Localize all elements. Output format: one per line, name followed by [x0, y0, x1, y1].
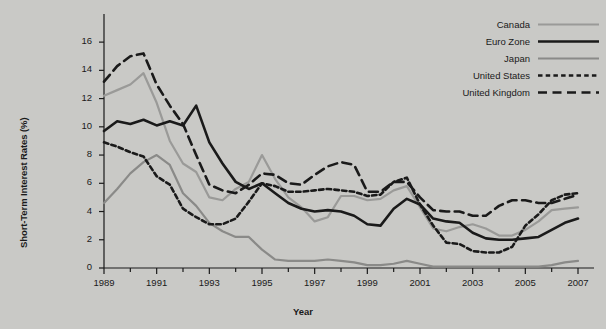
legend-swatch-japan	[537, 53, 600, 64]
x-tick-label: 1991	[137, 277, 177, 288]
chart-figure: Short-Term Interest Rates (%) Year 02468…	[0, 0, 606, 329]
x-tick-label: 1989	[84, 277, 124, 288]
y-tick-label: 14	[64, 63, 92, 74]
y-tick-label: 6	[64, 176, 92, 187]
legend-label: United States	[473, 70, 530, 81]
y-tick-label: 4	[64, 205, 92, 216]
y-tick-label: 8	[64, 148, 92, 159]
y-axis-title: Short-Term Interest Rates (%)	[18, 118, 29, 248]
y-tick-label: 10	[64, 120, 92, 131]
legend-swatch-united-kingdom	[537, 87, 600, 98]
legend-item-united-states[interactable]: United States	[404, 67, 600, 84]
x-tick-label: 2001	[400, 277, 440, 288]
x-tick-label: 2003	[453, 277, 493, 288]
legend-label: Japan	[504, 53, 530, 64]
x-tick-label: 2007	[558, 277, 598, 288]
legend-item-japan[interactable]: Japan	[404, 50, 600, 67]
x-tick-label: 1997	[295, 277, 335, 288]
legend-item-united-kingdom[interactable]: United Kingdom	[404, 84, 600, 101]
y-tick-label: 12	[64, 92, 92, 103]
legend-label: Euro Zone	[486, 36, 530, 47]
chart-legend: CanadaEuro ZoneJapanUnited StatesUnited …	[404, 16, 600, 101]
y-tick-label: 2	[64, 233, 92, 244]
legend-swatch-canada	[537, 19, 600, 30]
x-tick-label: 2005	[505, 277, 545, 288]
x-axis-title: Year	[0, 306, 606, 317]
legend-item-euro-zone[interactable]: Euro Zone	[404, 33, 600, 50]
x-tick-label: 1995	[242, 277, 282, 288]
legend-swatch-euro-zone	[537, 36, 600, 47]
legend-item-canada[interactable]: Canada	[404, 16, 600, 33]
legend-label: United Kingdom	[462, 87, 530, 98]
legend-swatch-united-states	[537, 70, 600, 81]
y-tick-label: 16	[64, 35, 92, 46]
y-tick-label: 0	[64, 261, 92, 272]
x-tick-label: 1993	[189, 277, 229, 288]
x-tick-label: 1999	[347, 277, 387, 288]
legend-label: Canada	[497, 19, 530, 30]
series-line-euro-zone	[104, 106, 578, 240]
